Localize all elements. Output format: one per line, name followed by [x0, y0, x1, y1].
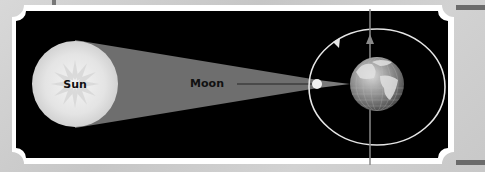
sun-label: Sun [63, 78, 87, 91]
sun: Sun [32, 41, 118, 127]
moon-label: Moon [190, 77, 224, 90]
eclipse-diagram: Sun Moon [0, 0, 485, 172]
earth [350, 57, 404, 111]
moon [312, 79, 322, 89]
